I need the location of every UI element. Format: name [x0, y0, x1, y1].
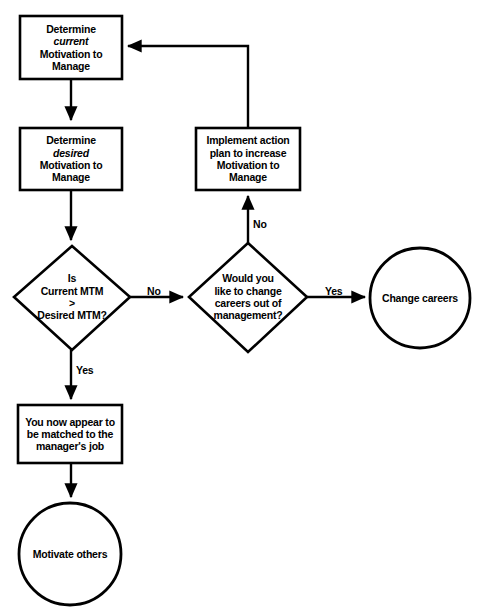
node-circle-change [370, 248, 470, 348]
node-implement-action [196, 128, 300, 190]
flowchart-diagram: decision careers --> change careers --> … [0, 0, 481, 611]
flowchart-canvas: decision careers --> change careers --> … [0, 0, 481, 611]
node-box-matched [18, 405, 122, 463]
node-decision-careers [189, 243, 307, 352]
node-circle-motivate [19, 503, 121, 605]
node-determine-desired [20, 128, 122, 190]
node-decision-mtm [14, 246, 130, 350]
edge-feedback-loop [128, 46, 248, 128]
node-determine-current [20, 16, 122, 79]
